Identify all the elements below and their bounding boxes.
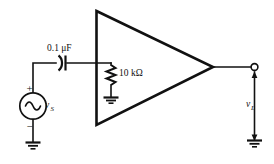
coupling-capacitor: 0.1 μF: [47, 43, 72, 71]
ground-resistor: [104, 98, 119, 104]
voltage-arrow-up: [252, 72, 258, 79]
output-label-subscript: L: [250, 104, 255, 112]
output-terminal-node: [251, 64, 258, 71]
circuit-canvas: + − v S 0.1 μF 10 kΩ: [0, 0, 274, 164]
input-resistor: 10 kΩ: [107, 63, 143, 97]
source-label: v: [45, 100, 50, 110]
ac-voltage-source: + − v S: [20, 82, 55, 132]
capacitor-label: 0.1 μF: [47, 43, 72, 53]
ground-source: [26, 143, 41, 149]
circuit-diagram: + − v S 0.1 μF 10 kΩ: [0, 0, 274, 164]
source-label-subscript: S: [51, 105, 55, 113]
resistor-label: 10 kΩ: [119, 68, 143, 78]
source-plus-sign: +: [27, 82, 33, 94]
output-branch: v L: [213, 64, 258, 141]
ground-load: [247, 141, 262, 147]
source-minus-sign: −: [27, 120, 33, 132]
